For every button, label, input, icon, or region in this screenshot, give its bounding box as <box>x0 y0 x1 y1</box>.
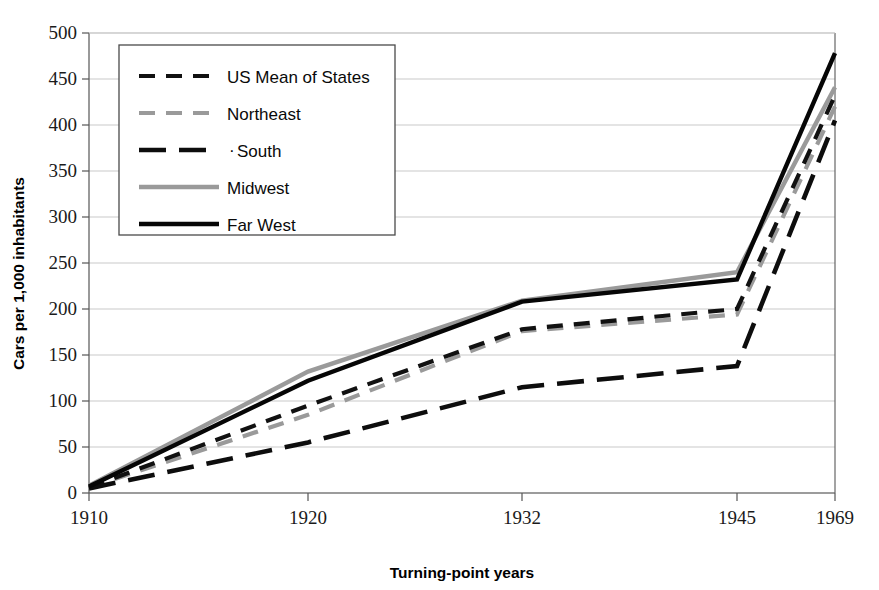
y-tick-label: 50 <box>58 436 77 457</box>
y-tick-label: 250 <box>49 252 78 273</box>
legend-label-midwest: Midwest <box>227 179 290 198</box>
x-tick-label: 1910 <box>70 507 108 528</box>
legend-label-south: South <box>237 142 281 161</box>
x-tick-label: 1945 <box>718 507 756 528</box>
x-tick-label: 1969 <box>816 507 854 528</box>
legend-label-us-mean-of-states: US Mean of States <box>227 68 370 87</box>
chart-legend: US Mean of StatesNortheast·SouthMidwestF… <box>119 45 395 235</box>
x-tick-label: 1932 <box>503 507 541 528</box>
legend-label-far-west: Far West <box>227 216 296 235</box>
y-axis-ticks: 050100150200250300350400450500 <box>49 22 90 503</box>
y-tick-label: 200 <box>49 298 78 319</box>
y-tick-label: 350 <box>49 160 78 181</box>
y-tick-label: 300 <box>49 206 78 227</box>
x-tick-label: 1920 <box>289 507 327 528</box>
legend-label-northeast: Northeast <box>227 105 301 124</box>
y-tick-label: 500 <box>49 22 78 43</box>
y-tick-label: 450 <box>49 68 78 89</box>
y-tick-label: 400 <box>49 114 78 135</box>
y-tick-label: 0 <box>68 482 78 503</box>
x-axis-title: Turning-point years <box>390 564 534 581</box>
line-chart-svg: 050100150200250300350400450500 191019201… <box>0 0 879 590</box>
legend-south-dot-marker: · <box>229 141 235 160</box>
y-tick-label: 100 <box>49 390 78 411</box>
y-tick-label: 150 <box>49 344 78 365</box>
y-axis-title-group: Cars per 1,000 inhabitants <box>10 177 27 370</box>
y-axis-title: Cars per 1,000 inhabitants <box>10 177 27 370</box>
chart-figure: 050100150200250300350400450500 191019201… <box>0 0 879 590</box>
x-axis-ticks: 19101920193219451969 <box>70 493 854 528</box>
